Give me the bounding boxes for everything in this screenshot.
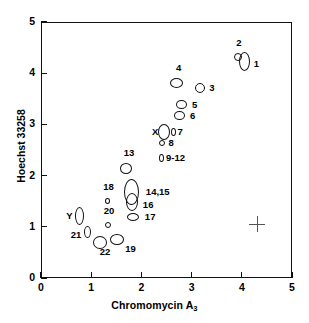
error-cross-vertical <box>257 216 258 232</box>
chromosome-marker <box>105 222 111 228</box>
y-tick <box>41 73 47 74</box>
chromosome-label: 19 <box>125 243 136 254</box>
x-tick-label: 5 <box>282 281 302 293</box>
chromosome-label: 16 <box>143 199 154 210</box>
y-tick <box>41 277 47 278</box>
x-tick <box>191 272 192 278</box>
y-axis-title: Hoechst 33258 <box>15 86 27 206</box>
chromosome-label: 1 <box>254 58 259 69</box>
y-tick-label: 4 <box>17 66 35 78</box>
chromosome-label: 14,15 <box>146 186 170 197</box>
x-tick <box>241 272 242 278</box>
x-tick <box>291 272 292 278</box>
chromosome-label: 7 <box>178 126 183 137</box>
chromosome-label: 20 <box>104 205 115 216</box>
chromosome-label: 22 <box>100 246 111 257</box>
x-axis-title: Chromomycin A3 <box>0 299 309 313</box>
y-tick-label: 0 <box>17 271 35 283</box>
chromosome-label: 9-12 <box>166 152 185 163</box>
chromosome-marker <box>171 128 176 136</box>
flow-karyotype-chart: 012345 012345 123456X789-121314,15161718… <box>0 0 309 323</box>
x-tick-label: 4 <box>232 281 252 293</box>
chromosome-marker <box>75 207 84 225</box>
x-tick-label: 1 <box>81 281 101 293</box>
x-axis-title-text: Chromomycin A <box>111 299 193 311</box>
chromosome-label: 18 <box>103 181 114 192</box>
x-tick <box>91 272 92 278</box>
y-tick <box>41 124 47 125</box>
x-tick <box>141 272 142 278</box>
y-tick-label: 5 <box>17 15 35 27</box>
chromosome-label: X <box>152 126 158 137</box>
chromosome-label: 21 <box>71 229 82 240</box>
y-tick-label: 1 <box>17 220 35 232</box>
chromosome-label: 13 <box>124 147 135 158</box>
chromosome-label: 8 <box>168 137 173 148</box>
chromosome-label: 5 <box>192 99 197 110</box>
chromosome-marker <box>127 213 139 221</box>
chromosome-label: 2 <box>236 37 241 48</box>
chromosome-marker <box>84 226 91 238</box>
y-tick <box>41 226 47 227</box>
x-axis-title-subscript: 3 <box>193 304 197 313</box>
x-tick-label: 2 <box>131 281 151 293</box>
chromosome-label: Y <box>66 210 72 221</box>
y-tick <box>41 175 47 176</box>
chromosome-label: 4 <box>176 62 181 73</box>
y-tick <box>41 21 47 22</box>
x-tick-label: 3 <box>182 281 202 293</box>
chromosome-label: 6 <box>190 110 195 121</box>
chromosome-label: 3 <box>209 82 214 93</box>
chromosome-label: 17 <box>145 211 156 222</box>
chromosome-marker <box>126 193 138 211</box>
chromosome-marker <box>159 154 164 162</box>
